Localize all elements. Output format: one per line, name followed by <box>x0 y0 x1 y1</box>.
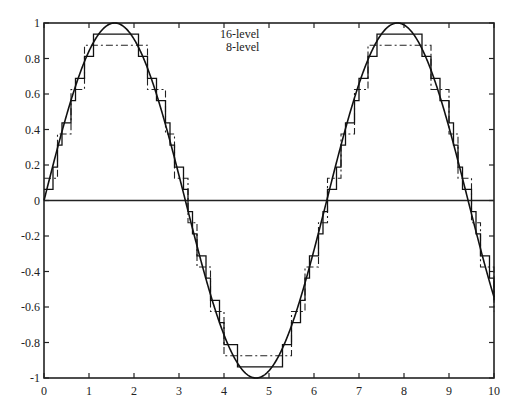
x-tick-label: 10 <box>488 384 500 398</box>
quantization-chart: 012345678910 -1-0.8-0.6-0.4-0.200.20.40.… <box>0 0 522 413</box>
legend: 16-level 8-level <box>220 27 260 54</box>
y-tick-label: -0.8 <box>21 336 40 350</box>
y-tick-label: 0.2 <box>25 158 40 172</box>
y-tick-label: -0.4 <box>21 265 40 279</box>
y-tick-label: 0.6 <box>25 87 40 101</box>
legend-label-16-level: 16-level <box>220 27 260 41</box>
x-tick-label: 4 <box>221 384 227 398</box>
x-tick-label: 1 <box>86 384 92 398</box>
y-tick-label: -0.2 <box>21 229 40 243</box>
y-tick-label: 0 <box>34 194 40 208</box>
x-tick-label: 8 <box>401 384 407 398</box>
y-tick-label: 0.8 <box>25 52 40 66</box>
x-tick-label: 3 <box>176 384 182 398</box>
x-tick-label: 0 <box>41 384 47 398</box>
x-tick-label: 5 <box>266 384 272 398</box>
y-tick-label: -1 <box>30 371 40 385</box>
y-tick-label: -0.6 <box>21 300 40 314</box>
y-tick-label: 0.4 <box>25 123 40 137</box>
y-tick-label: 1 <box>34 16 40 30</box>
x-tick-label: 9 <box>446 384 452 398</box>
x-tick-label: 7 <box>356 384 362 398</box>
legend-label-8-level: 8-level <box>226 40 260 54</box>
x-tick-label: 2 <box>131 384 137 398</box>
x-tick-label: 6 <box>311 384 317 398</box>
